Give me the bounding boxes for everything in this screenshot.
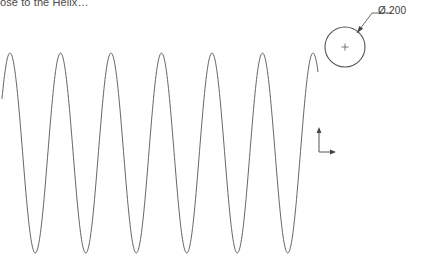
- diameter-callout: [325, 13, 392, 67]
- drawing-canvas: ose to the Helix… Ø.200: [0, 0, 422, 266]
- leader-arrowhead: [357, 26, 363, 33]
- helix-sine-curve: [2, 53, 318, 253]
- coordinate-axis-icon: [317, 127, 336, 154]
- leader-line: [357, 13, 392, 33]
- center-mark-cross: [342, 44, 349, 51]
- drawing-vector-layer: [0, 0, 422, 266]
- diameter-dimension-label: Ø.200: [378, 5, 406, 16]
